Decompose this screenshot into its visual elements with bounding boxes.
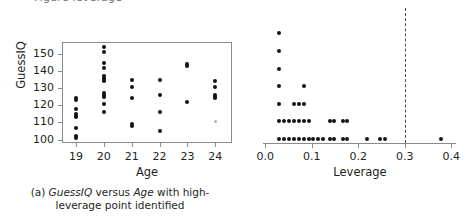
scatter-data-point: [158, 93, 162, 97]
scatter-data-point: [102, 61, 106, 65]
scatter-y-tick-label: 110: [20, 115, 54, 128]
scatter-data-point: [158, 78, 162, 82]
dotplot-dot: [311, 137, 315, 141]
scatter-y-tick-mark: [58, 122, 62, 123]
scatter-x-tick-mark: [187, 143, 188, 147]
dotplot-dot: [341, 119, 345, 123]
dotplot-dot: [378, 137, 382, 141]
dotplot-dot: [307, 137, 311, 141]
dotplot-dot: [297, 119, 301, 123]
dotplot-dot: [287, 119, 291, 123]
dotplot-x-tick-label: 0.4: [436, 150, 466, 163]
panel-b-dotplot: Leverage 0.00.10.20.30.4 (b) Dotplot of …: [240, 0, 469, 224]
scatter-x-tick-mark: [104, 143, 105, 147]
scatter-x-tick-label: 19: [63, 150, 89, 163]
dotplot-dot: [287, 137, 291, 141]
dotplot-dot: [302, 102, 306, 106]
scatter-x-tick-mark: [160, 143, 161, 147]
dotplot-dot: [277, 137, 281, 141]
scatter-data-point: [130, 122, 134, 126]
dotplot-axis-line: [263, 143, 456, 144]
scatter-x-tick-mark: [132, 143, 133, 147]
scatter-data-point: [158, 129, 162, 133]
dotplot-dot: [282, 119, 286, 123]
dotplot-dot: [307, 119, 311, 123]
dotplot-x-axis-label: Leverage: [260, 165, 460, 179]
scatter-y-tick-label: 120: [20, 98, 54, 111]
scatter-data-point: [130, 85, 134, 89]
scatter-data-point: [158, 110, 162, 114]
scatter-y-tick-label: 130: [20, 81, 54, 94]
dotplot-x-tick-label: 0.0: [250, 150, 280, 163]
dotplot-dot: [292, 119, 296, 123]
dotplot-plot-area: Leverage 0.00.10.20.30.4: [240, 0, 469, 180]
scatter-y-tick-mark: [58, 88, 62, 89]
dotplot-x-tick-mark: [451, 144, 452, 148]
dotplot-dot: [292, 102, 296, 106]
panel-a-scatterplot: GuessIQ Age 1001101201301401501920212223…: [0, 0, 240, 224]
dotplot-x-tick-label: 0.3: [390, 150, 420, 163]
dotplot-dot: [345, 119, 349, 123]
caption-a: (a) GuessIQ versus Age with high-leverag…: [12, 186, 228, 212]
scatter-x-axis-label: Age: [62, 165, 232, 179]
scatter-data-point: [74, 107, 78, 111]
dotplot-dot: [292, 137, 296, 141]
dotplot-x-tick-label: 0.1: [297, 150, 327, 163]
scatter-x-tick-mark: [76, 143, 77, 147]
dotplot-x-tick-mark: [405, 144, 406, 148]
dotplot-dot: [321, 137, 325, 141]
dotplot-dot: [277, 84, 281, 88]
dotplot-dot: [277, 67, 281, 71]
dotplot-dot: [328, 137, 332, 141]
dotplot-dot: [365, 137, 369, 141]
scatter-y-tick-mark: [58, 140, 62, 141]
caption-a-term-age: Age: [133, 186, 153, 198]
dotplot-dot: [332, 137, 336, 141]
scatter-y-tick-label: 150: [20, 47, 54, 60]
scatter-data-point: [130, 78, 134, 82]
scatter-x-tick-label: 20: [91, 150, 117, 163]
dotplot-dot: [277, 49, 281, 53]
scatter-y-tick-mark: [58, 105, 62, 106]
dotplot-dot: [332, 119, 336, 123]
dotplot-dot: [302, 137, 306, 141]
scatter-data-point: [102, 110, 106, 114]
scatter-x-tick-label: 21: [119, 150, 145, 163]
dotplot-dot: [277, 119, 281, 123]
scatter-x-tick-label: 22: [147, 150, 173, 163]
dotplot-dot: [383, 137, 387, 141]
caption-a-mid: versus: [92, 186, 133, 198]
scatter-data-point: [102, 45, 106, 49]
scatter-y-tick-mark: [58, 71, 62, 72]
dotplot-dot: [302, 84, 306, 88]
scatter-data-point: [74, 126, 78, 130]
dotplot-dot: [345, 137, 349, 141]
dotplot-dot: [328, 119, 332, 123]
dotplot-x-tick-mark: [312, 144, 313, 148]
scatter-x-tick-label: 24: [202, 150, 228, 163]
dotplot-cutoff-line: [405, 8, 406, 143]
dotplot-x-tick-mark: [358, 144, 359, 148]
scatter-x-tick-label: 23: [174, 150, 200, 163]
scatter-y-tick-mark: [58, 54, 62, 55]
dotplot-dot: [302, 119, 306, 123]
scatter-plot-area: GuessIQ Age 1001101201301401501920212223…: [0, 0, 240, 180]
caption-a-term-guessiq: GuessIQ: [49, 186, 93, 198]
caption-a-prefix: (a): [31, 186, 49, 198]
scatter-data-point: [102, 102, 106, 106]
scatter-plot-frame: [62, 42, 232, 143]
dotplot-dot: [282, 137, 286, 141]
dotplot-x-tick-mark: [265, 144, 266, 148]
dotplot-dot: [316, 137, 320, 141]
dotplot-dot: [297, 102, 301, 106]
dotplot-dot: [341, 137, 345, 141]
scatter-data-point: [74, 112, 78, 116]
dotplot-x-tick-label: 0.2: [343, 150, 373, 163]
scatter-x-tick-mark: [215, 143, 216, 147]
dotplot-dot: [277, 102, 281, 106]
scatter-y-tick-label: 100: [20, 133, 54, 146]
scatter-y-tick-label: 140: [20, 64, 54, 77]
dotplot-dot: [297, 137, 301, 141]
scatter-data-point: [102, 66, 106, 70]
scatter-data-point: [213, 85, 217, 89]
